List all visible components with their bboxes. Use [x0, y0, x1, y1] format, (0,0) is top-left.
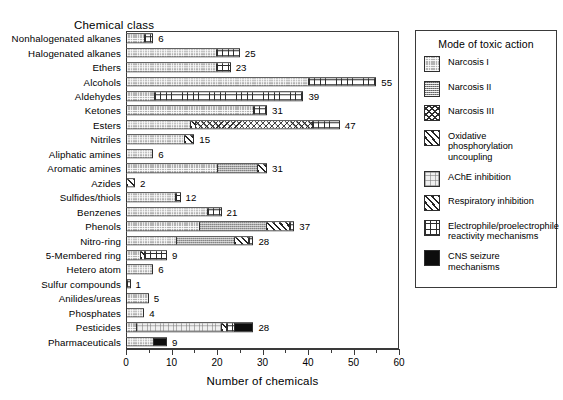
bar-row: Azides2: [126, 176, 399, 190]
bar-segment: [234, 237, 247, 245]
stacked-bar: [126, 120, 340, 130]
bar-value-label: 9: [172, 250, 177, 261]
category-label: Sulfides/thiols: [60, 192, 121, 203]
bar-segment: [127, 251, 140, 259]
legend-item[interactable]: Oxidative phosphorylation uncoupling: [424, 130, 551, 163]
bar-row: Sulfur compounds1: [126, 277, 399, 291]
legend-item[interactable]: Respiratory inhibition: [424, 195, 551, 211]
x-tick-label: 30: [257, 357, 268, 368]
legend-swatch-icon: [424, 250, 440, 266]
category-label: Nitro-ring: [80, 235, 121, 246]
bar-value-label: 23: [236, 62, 247, 73]
x-tick-major: [217, 349, 218, 355]
bar-segment: [136, 324, 221, 332]
bar-segment: [127, 63, 216, 71]
bar-segment: [127, 237, 176, 245]
x-tick-label: 10: [166, 357, 177, 368]
legend-item[interactable]: CNS seizure mechanisms: [424, 250, 551, 272]
bar-value-label: 6: [158, 148, 163, 159]
legend-item[interactable]: Narcosis I: [424, 56, 551, 72]
category-label: 5-Membered ring: [46, 250, 121, 261]
x-tick-label: 20: [211, 357, 222, 368]
stacked-bar: [126, 62, 231, 72]
category-label: Hetero atom: [67, 264, 121, 275]
bar-segment: [207, 208, 220, 216]
bar-row: Pesticides28: [126, 320, 399, 334]
legend-box: Mode of toxic action Narcosis INarcosis …: [415, 30, 557, 288]
x-axis: [126, 349, 399, 350]
category-label: Aromatic amines: [47, 163, 121, 174]
bar-value-label: 1: [136, 278, 141, 289]
bar-segment: [127, 92, 154, 100]
category-label: Esters: [93, 119, 121, 130]
bar-value-label: 55: [381, 76, 392, 87]
legend-swatch-icon: [424, 195, 440, 211]
bar-segment: [153, 338, 166, 346]
bar-value-label: 47: [345, 119, 356, 130]
category-label: Anilides/ureas: [59, 293, 121, 304]
bar-segment: [253, 107, 266, 115]
bar-value-label: 31: [272, 163, 283, 174]
bar-segment: [127, 338, 153, 346]
bar-row: Aliphatic amines6: [126, 147, 399, 161]
bar-row: Halogenated alkanes25: [126, 45, 399, 59]
bar-segment: [127, 49, 216, 57]
stacked-bar: [126, 250, 167, 260]
stacked-bar: [126, 48, 240, 58]
category-label: Pharmaceuticals: [48, 336, 121, 347]
bar-segment: [216, 49, 238, 57]
legend-label: CNS seizure mechanisms: [448, 250, 551, 272]
category-label: Halogenated alkanes: [28, 47, 121, 58]
bar-row: 5-Membered ring9: [126, 248, 399, 262]
bar-segment: [234, 324, 252, 332]
x-tick-major: [308, 349, 309, 355]
bar-row: Phenols37: [126, 219, 399, 233]
bar-segment: [216, 63, 229, 71]
stacked-bar: [126, 221, 294, 231]
x-tick-major: [399, 349, 400, 355]
bar-row: Ethers23: [126, 60, 399, 74]
bar-value-label: 15: [199, 134, 210, 145]
bar-segment: [144, 34, 152, 42]
legend-item[interactable]: Electrophile/proelectrophile reactivity …: [424, 220, 551, 242]
x-tick-label: 0: [123, 357, 129, 368]
category-label: Alcohols: [84, 76, 121, 87]
legend-label: AChE inhibition: [448, 171, 511, 183]
bar-segment: [226, 324, 235, 332]
legend-item[interactable]: Narcosis II: [424, 81, 551, 97]
bar-row: Aldehydes39: [126, 89, 399, 103]
legend-item[interactable]: AChE inhibition: [424, 171, 551, 187]
bar-value-label: 6: [158, 264, 163, 275]
legend-label: Respiratory inhibition: [448, 195, 534, 207]
stacked-bar: [126, 164, 267, 174]
bar-segment: [127, 121, 190, 129]
bar-segment: [289, 222, 293, 230]
category-label: Azides: [91, 177, 121, 188]
bar-row: Hetero atom6: [126, 262, 399, 276]
category-label: Aliphatic amines: [49, 148, 121, 159]
bar-row: Pharmaceuticals9: [126, 335, 399, 349]
stacked-bar: [126, 149, 153, 159]
bar-row: Benzenes21: [126, 204, 399, 218]
bar-segment: [199, 222, 266, 230]
legend-label: Electrophile/proelectrophile reactivity …: [448, 220, 559, 242]
bar-value-label: 21: [227, 206, 238, 217]
legend-label: Narcosis I: [448, 56, 489, 68]
bar-segment: [127, 324, 136, 332]
legend-label: Oxidative phosphorylation uncoupling: [448, 130, 551, 163]
x-tick-major: [354, 349, 355, 355]
bar-segment: [175, 193, 179, 201]
category-label: Phosphates: [69, 307, 121, 318]
bar-segment: [176, 237, 234, 245]
x-axis-title: Number of chemicals: [126, 375, 399, 387]
bar-value-label: 39: [308, 91, 319, 102]
bar-row: Aromatic amines31: [126, 161, 399, 175]
legend-label: Narcosis II: [448, 81, 491, 93]
legend-swatch-icon: [424, 130, 440, 146]
bar-segment: [127, 295, 148, 303]
legend-item[interactable]: Narcosis III: [424, 105, 551, 121]
x-tick-label: 60: [393, 357, 404, 368]
bar-row: Sulfides/thiols12: [126, 190, 399, 204]
legend-swatch-icon: [424, 171, 440, 187]
y-axis-title: Chemical class: [74, 19, 154, 31]
